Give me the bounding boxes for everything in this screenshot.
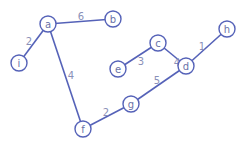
node-f: f xyxy=(75,121,91,137)
edge-weight-c-e: 3 xyxy=(138,56,144,67)
node-c: c xyxy=(150,35,166,51)
node-a: a xyxy=(40,16,56,32)
node-label: g xyxy=(128,99,134,110)
node-label: d xyxy=(183,61,189,72)
edge-weight-a-f: 4 xyxy=(68,70,74,81)
node-label: i xyxy=(18,58,21,69)
node-i: i xyxy=(11,55,27,71)
node-b: b xyxy=(105,11,121,27)
node-d: d xyxy=(178,58,194,74)
edge-weight-d-g: 5 xyxy=(154,75,160,86)
node-label: h xyxy=(224,24,230,35)
edge-weight-d-h: 1 xyxy=(199,41,205,52)
node-label: f xyxy=(81,124,85,135)
node-label: c xyxy=(155,38,161,49)
edge-a-f xyxy=(48,24,83,129)
graph-canvas: 62434152 abicehdgf xyxy=(0,0,239,142)
node-g: g xyxy=(123,96,139,112)
node-label: b xyxy=(110,14,116,25)
node-label: e xyxy=(115,64,121,75)
edge-weight-a-i: 2 xyxy=(26,36,32,47)
node-label: a xyxy=(45,19,51,30)
node-e: e xyxy=(110,61,126,77)
nodes-layer: abicehdgf xyxy=(11,11,235,137)
edge-weight-g-f: 2 xyxy=(103,107,109,118)
edge-weight-a-b: 6 xyxy=(78,11,84,22)
node-h: h xyxy=(219,21,235,37)
